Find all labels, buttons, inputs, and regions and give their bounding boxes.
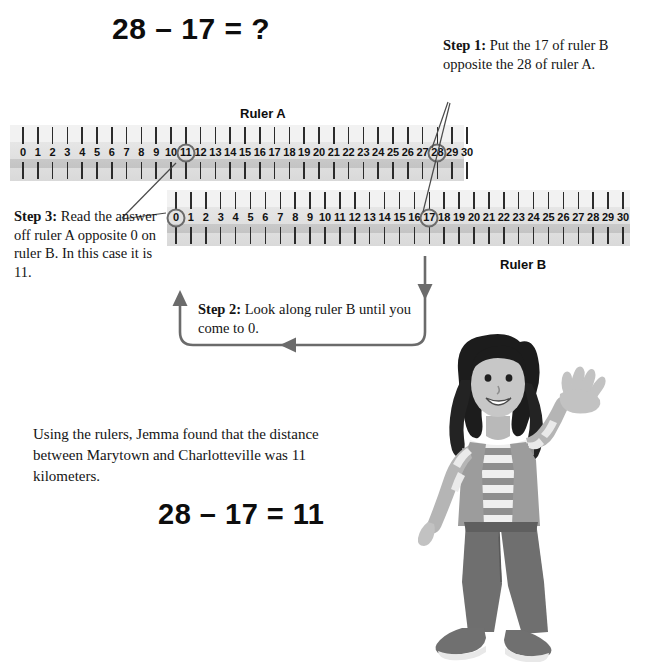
ruler-number: 2 (203, 212, 209, 223)
ruler-number: 12 (349, 212, 361, 223)
ruler-number: 24 (372, 147, 384, 158)
ruler-tick (533, 192, 535, 209)
ruler-tick (399, 227, 401, 244)
ruler-tick (354, 192, 356, 209)
ruler-tick (348, 162, 350, 179)
step3-annotation: Step 3: Read the answer off ruler A oppo… (14, 207, 164, 281)
ruler-tick (339, 227, 341, 244)
ruler-tick (244, 127, 246, 144)
ruler-tick (190, 192, 192, 209)
ruler-tick (250, 227, 252, 244)
ruler-number: 9 (307, 212, 313, 223)
ruler-tick (220, 192, 222, 209)
ruler-tick (407, 127, 409, 144)
ruler-number: 13 (209, 147, 221, 158)
ruler-tick (548, 227, 550, 244)
ruler-number: 3 (64, 147, 70, 158)
ruler-tick (578, 192, 580, 209)
ruler-tick (303, 162, 305, 179)
ruler-tick (622, 192, 624, 209)
ruler-tick (274, 127, 276, 144)
ruler-tick (52, 127, 54, 144)
ruler-tick (518, 192, 520, 209)
highlight-ring (420, 208, 439, 227)
ruler-tick (22, 162, 24, 179)
ruler-tick (250, 192, 252, 209)
ruler-number: 16 (408, 212, 420, 223)
ruler-tick (578, 227, 580, 244)
ruler-tick (437, 162, 439, 179)
ruler-number: 26 (402, 147, 414, 158)
ruler-number: 8 (138, 147, 144, 158)
step1-annotation: Step 1: Put the 17 of ruler B opposite t… (443, 36, 643, 73)
ruler-tick (175, 227, 177, 244)
ruler-tick (303, 127, 305, 144)
ruler-tick (377, 127, 379, 144)
ruler-number: 2 (50, 147, 56, 158)
pants-leg-left (462, 522, 502, 632)
ruler-tick (280, 227, 282, 244)
ruler-tick (333, 127, 335, 144)
ruler-number: 14 (224, 147, 236, 158)
ruler-tick (265, 192, 267, 209)
ruler-number: 13 (364, 212, 376, 223)
ruler-number: 5 (247, 212, 253, 223)
ruler-tick (215, 127, 217, 144)
ruler-tick (220, 227, 222, 244)
ruler-number: 16 (254, 147, 266, 158)
ruler-tick (622, 227, 624, 244)
ruler-tick (52, 162, 54, 179)
ruler-tick (348, 127, 350, 144)
ruler-a: 0123456789101112131415161718192021222324… (10, 125, 464, 181)
step3-label: Step 3: (14, 208, 57, 224)
ruler-b-scale: 0123456789101112131415161718192021222324… (167, 190, 630, 246)
ruler-tick (392, 127, 394, 144)
ruler-tick (141, 127, 143, 144)
ruler-tick (399, 192, 401, 209)
ruler-number: 18 (283, 147, 295, 158)
ruler-number: 22 (342, 147, 354, 158)
ruler-tick (81, 127, 83, 144)
ruler-number: 21 (328, 147, 340, 158)
ruler-tick (339, 192, 341, 209)
ruler-tick (185, 162, 187, 179)
ruler-tick (67, 127, 69, 144)
ruler-number: 1 (35, 147, 41, 158)
ruler-number: 18 (438, 212, 450, 223)
ruler-number: 23 (513, 212, 525, 223)
hand-right (560, 367, 606, 414)
ruler-number: 30 (617, 212, 629, 223)
top-equation: 28 – 17 = ? (112, 12, 270, 46)
ruler-tick (200, 127, 202, 144)
ruler-number: 17 (268, 147, 280, 158)
ruler-tick (422, 162, 424, 179)
ruler-tick (488, 227, 490, 244)
ruler-tick (451, 127, 453, 144)
ruler-number: 22 (498, 212, 510, 223)
ruler-tick (392, 162, 394, 179)
ruler-tick (318, 162, 320, 179)
ruler-number: 30 (461, 147, 473, 158)
ruler-tick (185, 127, 187, 144)
ruler-tick (592, 192, 594, 209)
ruler-tick (229, 127, 231, 144)
highlight-ring (167, 208, 186, 227)
ruler-tick (37, 162, 39, 179)
highlight-ring (176, 143, 195, 162)
girl-figure (418, 334, 606, 662)
ruler-number: 3 (218, 212, 224, 223)
ruler-number: 14 (378, 212, 390, 223)
pants-waist (464, 522, 538, 532)
ruler-tick (67, 162, 69, 179)
ruler-tick (175, 192, 177, 209)
ruler-tick (384, 227, 386, 244)
ruler-tick (215, 162, 217, 179)
ruler-number: 20 (313, 147, 325, 158)
ruler-tick (235, 227, 237, 244)
ruler-tick (354, 227, 356, 244)
ruler-tick (548, 192, 550, 209)
ruler-tick (324, 192, 326, 209)
girl-illustration (398, 332, 645, 662)
ruler-tick (318, 127, 320, 144)
ruler-tick (437, 127, 439, 144)
